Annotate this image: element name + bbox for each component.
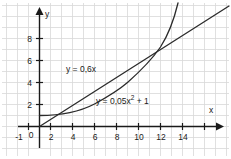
y-tick-label-2: 2: [20, 100, 32, 110]
y-tick-label-8: 8: [20, 34, 32, 44]
equation-label-parabola: y = 0,05x2 + 1: [96, 94, 149, 106]
x-axis-name: x: [209, 105, 213, 115]
origin-label: 0: [25, 130, 37, 140]
equation-parabola-prefix: y = 0,05x: [96, 96, 131, 106]
x-tick-label-12: 12: [153, 132, 169, 142]
y-axis-name: y: [45, 9, 49, 19]
y-tick-label-4: 4: [20, 78, 32, 88]
x-tick-label-14: 14: [175, 132, 191, 142]
equation-parabola-suffix: + 1: [134, 96, 148, 106]
x-tick-label-6: 6: [88, 132, 102, 142]
x-tick-label-8: 8: [110, 132, 124, 142]
x-tick-label-4: 4: [66, 132, 80, 142]
x-tick-label-10: 10: [131, 132, 147, 142]
y-tick-label-6: 6: [20, 56, 32, 66]
x-tick-label-2: 2: [44, 132, 58, 142]
coordinate-plot-figure: -1 0 2 4 6 8 10 12 14 2 4 6 8 y x y = 0,…: [0, 0, 231, 159]
equation-label-linear: y = 0,6x: [66, 64, 96, 74]
